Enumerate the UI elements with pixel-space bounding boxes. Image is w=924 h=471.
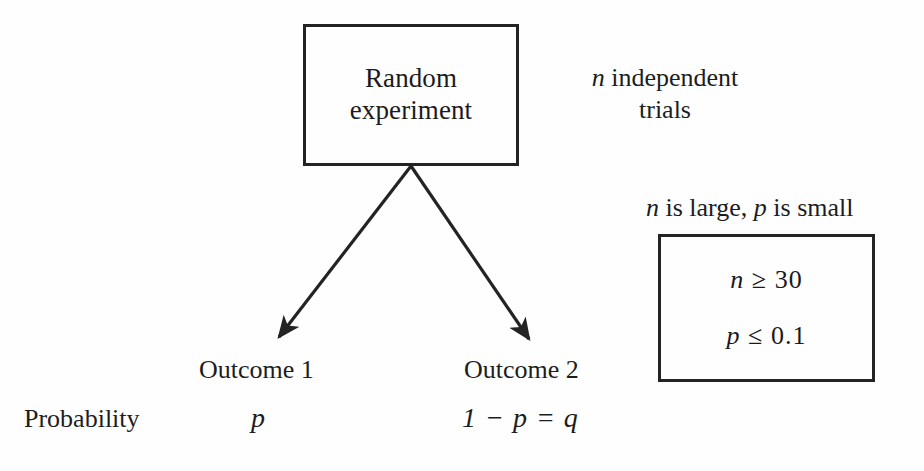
assumption-text-1: is large, [659,193,754,222]
diagram-canvas: Random experiment n independent trials n… [0,0,924,471]
independent-trials-note: n independent trials [572,62,758,125]
trials-symbol-n: n [592,63,605,92]
assumption-symbol-n: n [646,193,659,222]
conditions-list: n ≥ 30 p ≤ 0.1 [661,237,872,379]
random-experiment-line1: Random [365,63,457,95]
arrow-to-outcome-1 [279,166,411,337]
condition-n: n ≥ 30 [730,265,802,295]
assumption-text-2: is small [767,193,854,222]
conditions-box: n ≥ 30 p ≤ 0.1 [658,234,875,382]
random-experiment-line2: experiment [350,95,472,127]
assumption-symbol-p: p [754,193,767,222]
outcome-1-label: Outcome 1 [199,357,314,383]
outcome-1-probability: p [251,404,265,432]
random-experiment-box: Random experiment [303,24,519,166]
outcome-2-label: Outcome 2 [464,357,579,383]
trials-text: independent trials [605,63,739,124]
arrow-to-outcome-2 [411,166,529,339]
condition-n-relation: ≥ [752,265,767,294]
random-experiment-label: Random experiment [306,27,516,163]
condition-p-symbol: p [727,321,741,350]
condition-p: p ≤ 0.1 [727,321,807,351]
condition-n-symbol: n [730,265,744,294]
assumption-note: n is large, p is small [646,195,854,221]
condition-n-value: 30 [775,265,803,294]
condition-p-relation: ≤ [748,321,763,350]
probability-row-label: Probability [24,406,140,432]
outcome-2-probability: 1 − p = q [462,404,579,432]
condition-p-value: 0.1 [771,321,807,350]
